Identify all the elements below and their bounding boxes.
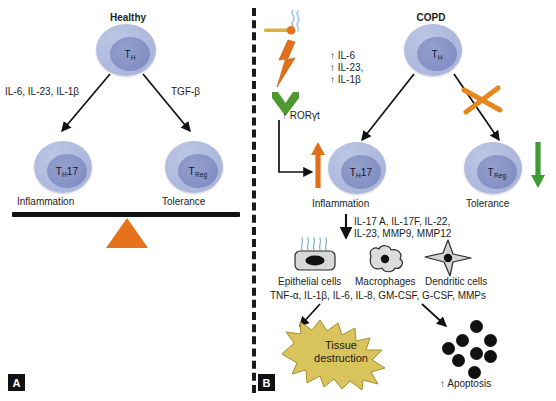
tissue-destruction-line-2: destruction xyxy=(299,352,383,365)
panel-a-treg-cell-label: TReg xyxy=(189,166,208,177)
tissue-destruction-label: Tissue destruction xyxy=(299,339,383,365)
cell-name-epithelial: Epithelial cells xyxy=(278,276,341,288)
apoptosis-dot-cluster xyxy=(440,320,512,376)
panel-a-tag: A xyxy=(8,374,25,391)
panel-b-tag: B xyxy=(258,374,275,391)
panel-a-left-outcome: Inflammation xyxy=(17,196,74,208)
apoptosis-label: ↑ Apoptosis xyxy=(440,378,491,390)
panel-a-treg-cell: TReg xyxy=(165,141,223,193)
effector-cytokine-line-1: IL-17 A, IL-17F, IL-22, xyxy=(354,216,451,228)
macrophage-icon xyxy=(362,244,408,274)
apoptosis-dot xyxy=(456,334,469,347)
panel-a-balance-beam xyxy=(12,212,240,217)
apoptosis-dot xyxy=(470,320,483,333)
panel-a-right-cytokines: TGF-β xyxy=(171,86,200,98)
orange-x-block-icon xyxy=(462,82,502,118)
panel-a-left-cytokines: IL-6, IL-23, IL-1β xyxy=(5,86,79,98)
apoptosis-dot xyxy=(484,334,497,347)
panel-b-treg-cell-label: TReg xyxy=(488,167,507,178)
panel-b-right-outcome: Tolerance xyxy=(466,198,509,210)
panel-a-fulcrum-triangle xyxy=(106,218,148,248)
cell-name-macrophages: Macrophages xyxy=(355,276,416,288)
inflammation-up-arrow xyxy=(310,142,326,188)
tolerance-down-arrow xyxy=(530,142,546,188)
panel-b-treg-cell: TReg xyxy=(464,142,522,194)
figure-canvas: Healthy TH IL-6, IL-23, IL-1β TGF-β TH17… xyxy=(0,0,556,401)
tissue-destruction-line-1: Tissue xyxy=(299,339,383,352)
effector-cytokine-list: IL-17 A, IL-17F, IL-22, IL-23, MMP9, MMP… xyxy=(354,216,451,240)
panel-b-left-outcome: Inflammation xyxy=(312,198,369,210)
panel-a-th17-cell: TH17 xyxy=(34,141,92,193)
panel-a-th17-cell-label: TH17 xyxy=(56,166,79,177)
panel-b-cytokine-2: ↑ IL-23, xyxy=(330,62,363,74)
panel-b-th17-cell-label: TH17 xyxy=(350,167,373,178)
cell-name-dendritic: Dendritic cells xyxy=(425,276,487,288)
apoptosis-dot xyxy=(442,342,455,355)
panel-b-left-cytokines: ↑ IL-6 ↑ IL-23, ↑ IL-1β xyxy=(330,50,363,86)
panel-a-right-outcome: Tolerance xyxy=(162,196,205,208)
apoptosis-dot xyxy=(470,347,483,360)
panel-b-th17-cell: TH17 xyxy=(328,142,386,194)
epithelial-cell-icon xyxy=(290,236,344,274)
panel-b-cytokine-3: ↑ IL-1β xyxy=(330,74,363,86)
dendritic-cell-icon xyxy=(424,240,472,276)
panel-b-cytokine-1: ↑ IL-6 xyxy=(330,50,363,62)
apoptosis-dot xyxy=(484,350,497,363)
effector-cytokine-line-2: IL-23, MMP9, MMP12 xyxy=(354,228,451,240)
apoptosis-dot xyxy=(452,354,465,367)
